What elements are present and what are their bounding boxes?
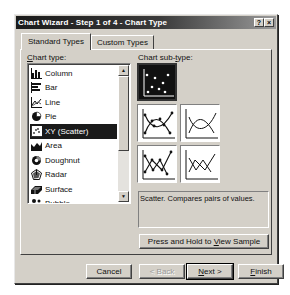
scroll-thumb[interactable] [118,76,129,151]
list-item-doughnut[interactable]: Doughnut [30,153,117,168]
list-item-bar[interactable]: Bar [30,81,117,96]
arrow-up-icon: ▲ [121,67,126,73]
close-icon: × [267,19,271,26]
tab-custom-types[interactable]: Custom Types [91,35,154,50]
list-item-surface[interactable]: Surface [30,182,117,197]
standard-types-panel: Chart type: Column Bar Line Pie [20,49,272,255]
list-item-pie[interactable]: Pie [30,110,117,125]
list-item-area[interactable]: Area [30,139,117,154]
view-sample-button[interactable]: Press and Hold to View Sample [139,234,269,249]
subtype-straight-lines[interactable] [180,145,220,183]
chart-type-label: Chart type: [27,53,66,62]
scroll-up-button[interactable]: ▲ [118,65,129,76]
bar-chart-icon [31,82,42,93]
list-item-radar[interactable]: Radar [30,168,117,183]
finish-button[interactable]: Finish [238,264,284,279]
straight-lines-icon [183,148,219,182]
area-chart-icon [31,140,42,151]
close-button[interactable]: × [264,18,274,27]
pie-chart-icon [31,111,42,122]
radar-chart-icon [31,169,42,180]
list-item-bubble[interactable]: Bubble [30,197,117,205]
help-button[interactable]: ? [254,18,264,27]
back-button[interactable]: < Back [139,264,185,279]
surface-chart-icon [31,184,42,195]
chart-subtype-grid [137,63,221,183]
list-item-line[interactable]: Line [30,95,117,110]
chart-type-listbox[interactable]: Column Bar Line Pie XY (Scatter) [27,63,131,204]
line-chart-icon [31,97,42,108]
subtype-description: Scatter. Compares pairs of values. [138,191,269,228]
chart-subtype-label: Chart sub-type: [138,53,193,62]
help-icon: ? [257,19,261,26]
bubble-chart-icon [31,198,42,204]
list-item-xy-scatter[interactable]: XY (Scatter) [30,124,117,139]
smoothed-lines-markers-icon [140,107,176,141]
list-item-column[interactable]: Column [30,66,117,81]
subtype-smoothed-lines[interactable] [180,104,220,142]
straight-lines-markers-icon [140,148,176,182]
arrow-down-icon: ▼ [121,193,126,199]
window-title: Chart Wizard - Step 1 of 4 - Chart Type [18,18,167,27]
tab-strip: Standard Types Custom Types [21,35,154,50]
smoothed-lines-icon [183,107,219,141]
tab-standard-types[interactable]: Standard Types [21,33,91,50]
title-bar[interactable]: Chart Wizard - Step 1 of 4 - Chart Type … [16,16,276,29]
subtype-scatter-markers[interactable] [137,63,177,101]
next-button[interactable]: Next > [187,264,233,279]
subtype-smoothed-lines-markers[interactable] [137,104,177,142]
scatter-markers-icon [141,67,175,99]
scatter-chart-icon [31,126,42,137]
cancel-button[interactable]: Cancel [86,264,132,279]
column-chart-icon [31,68,42,79]
chart-wizard-dialog: Chart Wizard - Step 1 of 4 - Chart Type … [14,14,278,284]
scroll-down-button[interactable]: ▼ [118,191,129,202]
doughnut-chart-icon [31,155,42,166]
chart-type-scrollbar[interactable]: ▲ ▼ [118,65,129,202]
subtype-straight-lines-markers[interactable] [137,145,177,183]
